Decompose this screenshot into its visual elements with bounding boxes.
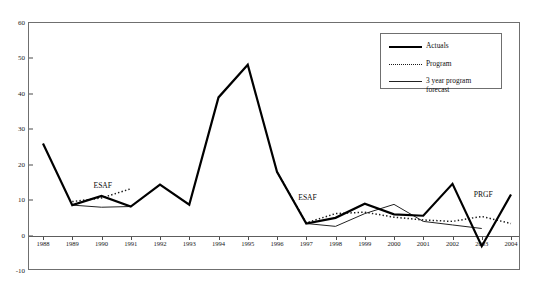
legend-label: Actuals	[426, 42, 449, 50]
chart-annotation: ESAF	[94, 181, 113, 190]
legend-item: Program	[389, 60, 451, 68]
y-tick-label: 10	[18, 197, 25, 204]
y-tick-label: -10	[16, 268, 25, 275]
chart-figure: -100102030405060 19881989199019911992199…	[0, 0, 544, 298]
chart-annotation: ESAF	[298, 193, 317, 202]
legend-swatch	[389, 77, 422, 85]
legend-label-continuation: forecast	[426, 85, 449, 94]
y-tick-label: 30	[18, 126, 25, 133]
legend-swatch	[389, 60, 422, 68]
y-tick-label: 40	[18, 90, 25, 97]
legend-item: Actuals	[389, 42, 449, 50]
y-tick-label: 0	[22, 232, 26, 239]
legend-label: Program	[426, 60, 451, 68]
chart-title-clipped	[0, 0, 544, 9]
series-3-year-program-forecast	[72, 205, 131, 207]
legend-label: 3 year program	[426, 77, 471, 85]
legend-item: 3 year program	[389, 77, 471, 85]
y-tick-label: 20	[18, 161, 25, 168]
legend: ActualsProgram3 year programforecast	[380, 33, 502, 89]
legend-swatch	[389, 42, 422, 50]
chart-annotation: PRGF	[474, 190, 493, 199]
y-tick-label: 50	[18, 55, 25, 62]
y-tick-label: 60	[18, 20, 25, 27]
